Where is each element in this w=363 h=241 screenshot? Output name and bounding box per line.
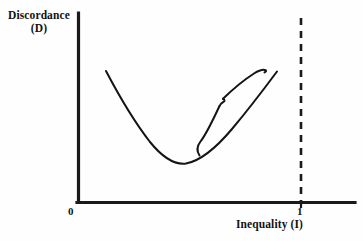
origin-tick-label: 0	[68, 205, 74, 217]
y-axis-label-line1: Discordance	[8, 9, 70, 21]
figure-container: Discordance(D) Inequality (I) 0 1	[0, 0, 363, 241]
y-axis-label: Discordance(D)	[4, 9, 74, 35]
y-axis-label-line2: (D)	[4, 22, 74, 35]
threshold-tick-label: 1	[297, 205, 303, 217]
x-axis-label: Inequality (I)	[236, 218, 303, 231]
series-inner-curve-lower	[198, 106, 220, 156]
series-inner-curve-notch	[220, 99, 225, 106]
series-outer-u-curve	[106, 71, 277, 164]
plot-canvas	[0, 0, 363, 241]
